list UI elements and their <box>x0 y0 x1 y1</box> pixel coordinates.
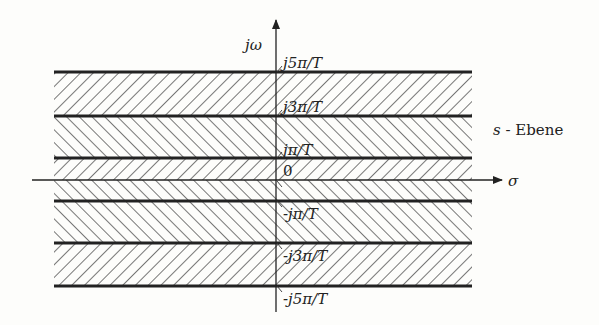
plane-label: s - Ebene <box>493 121 563 139</box>
tick-label-jpi: jπ/T <box>280 141 314 159</box>
s-plane-diagram: jω σ s - Ebene j5π/T j3π/T jπ/T 0 -jπ/T … <box>0 0 599 325</box>
tick-label-minus-j3pi: -j3π/T <box>283 247 328 265</box>
tick-label-minus-jpi: -jπ/T <box>283 205 319 223</box>
strip-j5-j3 <box>54 72 472 116</box>
tick-label-minus-j5pi: -j5π/T <box>283 290 328 308</box>
tick-label-zero: 0 <box>283 162 293 180</box>
tick-label-j5pi: j5π/T <box>280 54 323 72</box>
strips <box>54 72 472 286</box>
jomega-axis-label: jω <box>242 36 262 54</box>
plane-label-text: - Ebene <box>501 121 564 139</box>
sigma-axis-label: σ <box>508 172 519 190</box>
strip-center-lower <box>54 180 472 201</box>
tick-label-j3pi: j3π/T <box>280 98 323 116</box>
strip-m1-m3 <box>54 201 472 243</box>
strip-j3-j1 <box>54 116 472 158</box>
strip-center-upper <box>54 158 472 180</box>
strip-m3-m5 <box>54 243 472 286</box>
